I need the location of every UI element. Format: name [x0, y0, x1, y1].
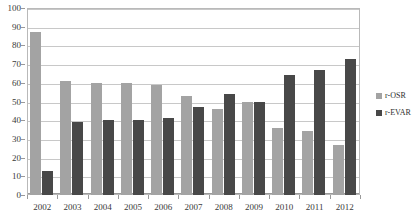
bar-r-evar-2012 — [345, 59, 356, 196]
bar-r-osr-2007 — [181, 96, 192, 195]
bar-r-evar-2008 — [224, 94, 235, 195]
bar-r-evar-2004 — [103, 120, 114, 195]
bar-r-osr-2005 — [121, 83, 132, 195]
x-axis-tick-mark — [27, 195, 28, 199]
bar-r-evar-2003 — [72, 122, 83, 195]
x-axis-tick-label-2003: 2003 — [55, 202, 89, 212]
y-axis-tick-label: 50 — [12, 98, 21, 107]
y-axis-tick-label: 90 — [12, 23, 21, 32]
bar-r-osr-2012 — [333, 145, 344, 195]
y-axis-tick-mark — [21, 195, 25, 196]
x-axis-tick-label-2012: 2012 — [328, 202, 362, 212]
y-axis: 0102030405060708090100 — [0, 8, 25, 195]
legend-item-label: r-OSR — [385, 92, 406, 100]
y-axis-tick-mark — [21, 176, 25, 177]
x-axis-tick-mark — [178, 195, 179, 199]
x-axis-tick-mark — [360, 195, 361, 199]
y-axis-tick-label: 60 — [12, 79, 21, 88]
x-axis-tick-label-2010: 2010 — [267, 202, 301, 212]
bar-r-evar-2005 — [133, 120, 144, 195]
bars-layer — [27, 8, 360, 195]
y-axis-tick-label: 100 — [8, 4, 22, 13]
x-axis-tick-mark — [330, 195, 331, 199]
y-axis-tick-mark — [21, 139, 25, 140]
x-axis-tick-label-2008: 2008 — [207, 202, 241, 212]
y-axis-tick-mark — [21, 45, 25, 46]
x-axis-tick-mark — [239, 195, 240, 199]
bar-chart: 0102030405060708090100 20022003200420052… — [0, 0, 418, 224]
bar-group — [27, 8, 57, 195]
bar-group — [269, 8, 299, 195]
bar-r-osr-2008 — [212, 109, 223, 195]
x-axis-tick-mark — [299, 195, 300, 199]
legend-item-label: r-EVAR — [385, 109, 411, 117]
x-axis-tick-label-2006: 2006 — [146, 202, 180, 212]
x-axis-tick-mark — [209, 195, 210, 199]
bar-group — [330, 8, 360, 195]
x-axis-tick-mark — [269, 195, 270, 199]
bar-r-evar-2007 — [193, 107, 204, 195]
x-axis-tick-mark — [118, 195, 119, 199]
bar-group — [239, 8, 269, 195]
legend-item-r-osr[interactable]: r-OSR — [376, 92, 418, 100]
bar-r-evar-2010 — [284, 75, 295, 195]
bar-r-evar-2011 — [314, 70, 325, 195]
bar-group — [299, 8, 329, 195]
bar-r-evar-2006 — [163, 118, 174, 195]
y-axis-tick-label: 10 — [12, 172, 21, 181]
bar-r-osr-2010 — [272, 128, 283, 195]
square-swatch-icon — [376, 93, 382, 99]
legend-item-r-evar[interactable]: r-EVAR — [376, 109, 418, 117]
y-axis-tick-mark — [21, 8, 25, 9]
x-axis: 2002200320042005200620072008200920102011… — [27, 195, 360, 224]
bar-group — [57, 8, 87, 195]
bar-group — [88, 8, 118, 195]
x-axis-tick-mark — [148, 195, 149, 199]
square-swatch-icon — [376, 110, 382, 116]
x-axis-tick-label-2005: 2005 — [116, 202, 150, 212]
x-axis-tick-label-2007: 2007 — [177, 202, 211, 212]
x-axis-tick-label-2002: 2002 — [25, 202, 59, 212]
y-axis-tick-mark — [21, 27, 25, 28]
y-axis-tick-label: 70 — [12, 60, 21, 69]
bar-group — [178, 8, 208, 195]
y-axis-tick-label: 30 — [12, 135, 21, 144]
bar-r-osr-2006 — [151, 85, 162, 195]
y-axis-tick-mark — [21, 83, 25, 84]
y-axis-tick-mark — [21, 64, 25, 65]
bar-group — [209, 8, 239, 195]
x-axis-tick-label-2011: 2011 — [298, 202, 332, 212]
bar-r-osr-2002 — [30, 32, 41, 195]
bar-r-osr-2003 — [60, 81, 71, 195]
bar-r-osr-2004 — [91, 83, 102, 195]
x-axis-tick-mark — [57, 195, 58, 199]
bar-group — [148, 8, 178, 195]
bar-group — [118, 8, 148, 195]
chart-legend: r-OSRr-EVAR — [376, 92, 418, 126]
y-axis-tick-label: 40 — [12, 116, 21, 125]
y-axis-tick-mark — [21, 102, 25, 103]
y-axis-tick-label: 20 — [12, 154, 21, 163]
y-axis-tick-mark — [21, 120, 25, 121]
y-axis-tick-mark — [21, 158, 25, 159]
x-axis-tick-label-2004: 2004 — [86, 202, 120, 212]
bar-r-evar-2002 — [42, 171, 53, 195]
y-axis-tick-label: 80 — [12, 41, 21, 50]
bar-r-evar-2009 — [254, 102, 265, 196]
x-axis-tick-label-2009: 2009 — [237, 202, 271, 212]
x-axis-tick-mark — [88, 195, 89, 199]
bar-r-osr-2009 — [242, 102, 253, 196]
bar-r-osr-2011 — [302, 131, 313, 195]
